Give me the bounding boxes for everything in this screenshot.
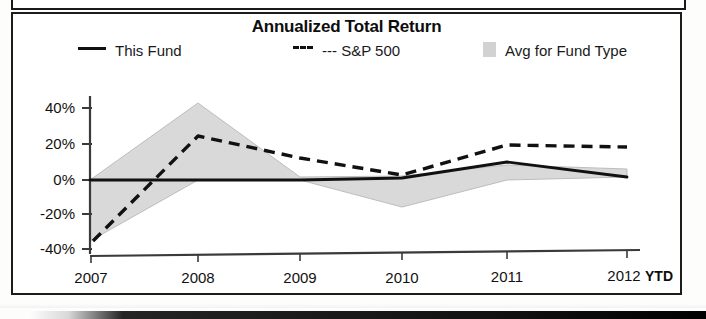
page-edge-highlight xyxy=(0,303,706,308)
ytd-annotation: YTD xyxy=(645,268,673,284)
x-axis-label-2008: 2008 xyxy=(165,269,231,286)
x-axis-label-2007: 2007 xyxy=(58,269,124,286)
plot-area: 40% 20% 0% -20% -40% 2007 2008 2009 2010… xyxy=(13,14,684,297)
x-axis-label-2011: 2011 xyxy=(474,268,540,285)
y-axis-label-40: 40% xyxy=(17,99,75,116)
chart-plot-svg xyxy=(13,14,684,297)
annualized-total-return-panel: Annualized Total Return This Fund --- S&… xyxy=(11,12,682,295)
y-axis-label-neg40: -40% xyxy=(17,240,75,257)
avg-fund-type-band xyxy=(90,103,627,241)
x-axis-label-2009: 2009 xyxy=(267,269,333,286)
x-axis-label-2010: 2010 xyxy=(369,269,435,286)
scanned-page-background: Annualized Total Return This Fund --- S&… xyxy=(0,0,706,319)
y-axis-label-0: 0% xyxy=(17,171,75,188)
y-axis-label-20: 20% xyxy=(17,135,75,152)
adjacent-panel-edge xyxy=(11,0,686,10)
x-axis-line xyxy=(90,250,640,256)
y-axis-label-neg20: -20% xyxy=(17,205,75,222)
page-edge-shadow-bar xyxy=(28,311,706,319)
